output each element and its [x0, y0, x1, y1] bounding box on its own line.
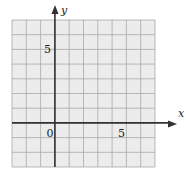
x-tick-label: 5: [118, 127, 125, 140]
x-axis-label: x: [178, 107, 185, 120]
x-tick-label: 0: [46, 127, 53, 140]
x-axis-arrow-icon: [168, 121, 177, 128]
y-tick-label: 5: [44, 43, 51, 56]
y-axis-arrow-icon: [52, 5, 59, 14]
coordinate-plane: x y 055: [0, 0, 186, 172]
y-axis-label: y: [60, 4, 68, 17]
